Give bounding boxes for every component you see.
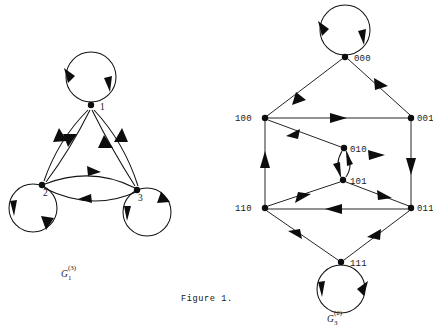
node-010[interactable] <box>341 145 347 151</box>
node-label-101: 101 <box>350 177 367 187</box>
node-000[interactable] <box>342 54 348 60</box>
node-1[interactable] <box>88 102 94 108</box>
left-graph-name: G 1 (3) <box>61 264 77 282</box>
node-label-111: 111 <box>350 259 367 269</box>
edge-1-to-2 <box>44 110 88 181</box>
node-label-011: 011 <box>417 204 433 214</box>
edge-111-to-110 <box>267 211 338 260</box>
edge-100-to-000 <box>267 59 342 116</box>
figure-canvas: 1 2 3 G 1 (3) <box>0 0 433 326</box>
node-111[interactable] <box>338 259 344 265</box>
node-label-110: 110 <box>235 204 252 214</box>
right-graph-name-superscript: (2) <box>334 309 343 317</box>
left-graph-name-subscript: 1 <box>68 274 72 282</box>
node-011[interactable] <box>408 205 414 211</box>
figure-page: 1 2 3 G 1 (3) <box>0 0 433 326</box>
edge-001-to-011 <box>406 121 416 205</box>
node-label-000: 000 <box>354 54 371 64</box>
right-graph-name: G 3 (2) <box>327 309 343 326</box>
node-001[interactable] <box>408 115 414 121</box>
node-100[interactable] <box>262 115 268 121</box>
node-label-3: 3 <box>138 193 143 203</box>
left-graph-name-base: G <box>61 269 68 279</box>
node-101[interactable] <box>340 177 346 183</box>
edge-2-to-3 <box>45 166 135 188</box>
edge-2-to-1 <box>46 110 90 182</box>
self-loop-node-1 <box>64 52 116 102</box>
edge-000-to-001 <box>348 59 410 115</box>
edge-100-to-001 <box>268 113 408 123</box>
node-label-010: 010 <box>350 145 367 155</box>
node-label-2: 2 <box>43 188 48 198</box>
figure-caption: Figure 1. <box>181 294 233 304</box>
stray-arrowhead <box>368 150 385 160</box>
node-label-1: 1 <box>100 102 105 112</box>
edge-011-to-110 <box>268 204 408 214</box>
node-110[interactable] <box>262 205 268 211</box>
node-label-001: 001 <box>417 114 433 124</box>
edge-110-to-101 <box>268 182 340 206</box>
edge-010-to-100 <box>268 120 341 147</box>
self-loop-000 <box>318 5 370 55</box>
left-graph-name-superscript: (3) <box>68 264 77 272</box>
edge-3-to-2 <box>44 188 136 203</box>
edge-3-to-1 <box>92 110 135 186</box>
node-label-100: 100 <box>235 114 252 124</box>
right-graph: 000 100 001 010 101 110 011 111 G 3 (2) <box>235 5 433 326</box>
edge-011-to-111 <box>344 211 409 260</box>
edge-010-to-101 <box>333 151 342 177</box>
self-loop-node-3 <box>123 188 171 236</box>
right-graph-name-base: G <box>327 314 334 324</box>
right-graph-name-subscript: 3 <box>334 319 338 326</box>
self-loop-111 <box>317 265 368 313</box>
edge-110-to-100 <box>260 121 270 205</box>
left-graph: 1 2 3 G 1 (3) <box>9 52 171 282</box>
